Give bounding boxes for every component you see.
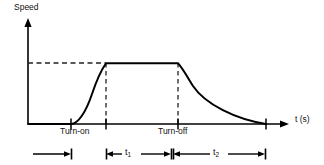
- t2-subscript: 2: [216, 151, 220, 158]
- t1-subscript: 1: [128, 151, 132, 158]
- turn-on-label: Turn-on: [60, 127, 89, 136]
- speed-curve: [28, 63, 266, 124]
- t1-label: t1: [125, 148, 131, 159]
- delay-interval-arrow: [33, 149, 72, 160]
- speed-time-diagram: Speed t (s) Turn-on Turn-off t1 t2: [0, 0, 324, 165]
- t2-interval-arrow: [173, 149, 266, 160]
- t1-interval-arrow: [106, 149, 172, 160]
- y-axis-label: Speed: [14, 3, 39, 12]
- turn-off-label: Turn-off: [158, 127, 187, 136]
- x-axis-label: t (s): [295, 115, 310, 124]
- t2-label: t2: [213, 148, 219, 159]
- diagram-canvas: [0, 0, 324, 165]
- y-axis: [24, 18, 31, 124]
